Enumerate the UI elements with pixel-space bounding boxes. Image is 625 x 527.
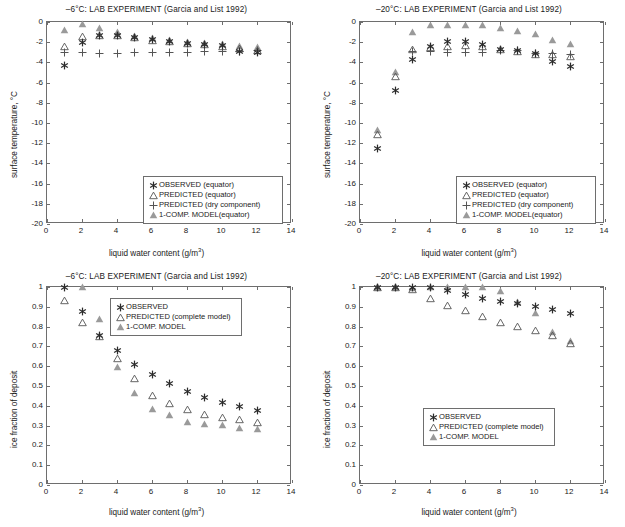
panel-title: –6°C: LAB EXPERIMENT (Garcia and List 19…	[0, 5, 313, 14]
legend-item: PREDICTED (equator)	[147, 190, 278, 200]
legend: OBSERVED (equator)PREDICTED (equator)PRE…	[456, 176, 596, 224]
y-axis-tick	[287, 184, 290, 185]
panel-title: –20°C: LAB EXPERIMENT (Garcia and List 1…	[313, 272, 625, 281]
y-axis-tick	[360, 163, 363, 164]
x-axis-tick	[500, 287, 501, 290]
marker-triangle-open-icon	[567, 53, 573, 58]
legend-item: 1-COMP. MODEL(equator)	[147, 210, 278, 220]
x-axis-tick	[257, 287, 258, 290]
y-axis-tick	[287, 83, 290, 84]
x-axis-tick	[257, 22, 258, 25]
legend-label: PREDICTED (dry component)	[159, 200, 260, 210]
x-axis-tick-label: 10	[530, 487, 539, 496]
y-axis-tick	[600, 204, 603, 205]
x-axis-title-text: liquid water content (g/m	[109, 508, 198, 517]
x-axis-tick-label: 8	[184, 226, 188, 235]
x-axis-tick	[360, 219, 361, 222]
x-axis-tick	[187, 22, 188, 25]
y-axis-tick	[47, 184, 50, 185]
marker-triangle-open-icon	[480, 313, 486, 318]
x-axis-tick-label: 0	[357, 487, 361, 496]
x-axis-tick	[47, 219, 48, 222]
panel-title: –20°C: LAB EXPERIMENT (Garcia and List 1…	[313, 5, 625, 14]
y-axis-tick	[600, 386, 603, 387]
x-axis-tick	[292, 480, 293, 483]
y-axis-tick	[360, 224, 363, 225]
y-axis-tick-label: -2	[18, 37, 43, 46]
y-axis-tick	[600, 123, 603, 124]
y-axis-tick	[600, 445, 603, 446]
y-axis-tick-label: 0.8	[331, 321, 356, 330]
y-axis-tick-label: -14	[331, 158, 356, 167]
legend-item: OBSERVED (equator)	[147, 180, 278, 190]
y-axis-tick	[600, 42, 603, 43]
legend-label: 1-COMP. MODEL	[439, 432, 499, 442]
y-axis-tick	[360, 22, 363, 23]
y-axis-tick-label: 0.3	[18, 420, 43, 429]
x-axis-tick	[535, 287, 536, 290]
x-axis-tick-label: 10	[217, 226, 226, 235]
y-axis-tick	[47, 445, 50, 446]
legend-marker	[460, 210, 472, 220]
marker-triangle-open-icon	[149, 37, 155, 42]
legend-label: 1-COMP. MODEL	[126, 322, 186, 332]
legend-item: OBSERVED (equator)	[460, 180, 591, 190]
marker-triangle-open-icon	[62, 297, 68, 302]
y-axis-tick	[600, 143, 603, 144]
y-axis-tick-label: -16	[18, 178, 43, 187]
legend-marker	[460, 190, 472, 200]
marker-triangle-open-icon	[132, 35, 138, 40]
y-axis-tick	[47, 143, 50, 144]
y-axis-tick-label: -6	[18, 77, 43, 86]
plot-area	[359, 286, 604, 484]
panel-title: –6°C: LAB EXPERIMENT (Garcia and List 19…	[0, 272, 313, 281]
legend-label: PREDICTED (equator)	[159, 190, 236, 200]
x-axis-tick-label: 8	[497, 487, 501, 496]
legend: OBSERVEDPREDICTED (complete model)1-COMP…	[110, 298, 242, 336]
x-axis-tick-label: 12	[565, 226, 574, 235]
x-axis-tick	[605, 219, 606, 222]
x-axis-title-close: )	[201, 508, 204, 517]
y-axis-tick	[47, 103, 50, 104]
x-axis-tick	[465, 480, 466, 483]
y-axis-tick-label: 0.9	[331, 301, 356, 310]
y-axis-tick	[600, 346, 603, 347]
x-axis-tick-label: 10	[217, 487, 226, 496]
y-axis-tick	[47, 42, 50, 43]
x-axis-tick	[82, 22, 83, 25]
x-axis-tick	[500, 22, 501, 25]
marker-triangle-open-icon	[463, 193, 469, 198]
x-axis-tick	[152, 480, 153, 483]
x-axis-tick	[222, 287, 223, 290]
x-axis-tick-label: 4	[427, 226, 431, 235]
y-axis-tick-label: 0.1	[18, 460, 43, 469]
marker-triangle-open-icon	[62, 43, 68, 48]
y-axis-tick	[360, 465, 363, 466]
marker-triangle-open-icon	[114, 356, 120, 361]
marker-triangle-open-icon	[550, 52, 556, 57]
marker-triangle-open-icon	[97, 32, 103, 37]
y-axis-tick	[600, 103, 603, 104]
y-axis-tick-label: 0.6	[331, 361, 356, 370]
y-axis-tick-label: 0.3	[331, 420, 356, 429]
x-axis-tick	[292, 22, 293, 25]
y-axis-tick-label: 1	[18, 282, 43, 291]
y-axis-tick	[287, 204, 290, 205]
x-axis-tick	[430, 480, 431, 483]
x-axis-title-close: )	[514, 508, 517, 517]
y-axis-tick	[600, 62, 603, 63]
marker-triangle-open-icon	[427, 44, 433, 49]
marker-triangle-open-icon	[132, 376, 138, 381]
marker-triangle-open-icon	[410, 287, 416, 292]
legend-label: OBSERVED (equator)	[159, 180, 234, 190]
figure-four-panel-scatter: –6°C: LAB EXPERIMENT (Garcia and List 19…	[0, 0, 625, 527]
x-axis-tick	[292, 219, 293, 222]
y-axis-tick-label: 0	[18, 17, 43, 26]
y-axis-tick	[287, 465, 290, 466]
y-axis-tick-label: 0.4	[331, 400, 356, 409]
x-axis-title: liquid water content (g/m3)	[313, 506, 625, 517]
y-axis-tick-label: -10	[331, 118, 356, 127]
x-axis-tick	[570, 480, 571, 483]
marker-triangle-open-icon	[97, 334, 103, 339]
legend-marker	[147, 200, 159, 210]
